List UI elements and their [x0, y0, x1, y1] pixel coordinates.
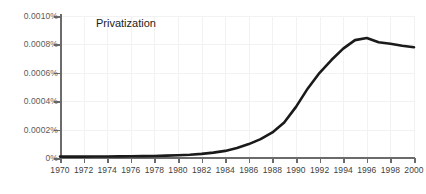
privatization-line-chart: 0%0.0002%0.0004%0.0006%0.0008%0.0010% 19… — [0, 0, 426, 194]
series-line-layer — [0, 0, 426, 194]
series-line-privatization — [60, 38, 414, 157]
